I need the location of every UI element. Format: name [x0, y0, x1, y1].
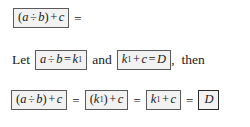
- equals-sign: =: [69, 12, 86, 25]
- variable-c: c: [118, 93, 124, 106]
- equals-sign-2: =: [128, 94, 145, 107]
- equals-sign-1: =: [67, 94, 84, 107]
- variable-D: D: [157, 53, 166, 66]
- plus-operator: +: [131, 53, 141, 66]
- division-operator: ÷: [46, 53, 56, 66]
- equals-sign: =: [62, 53, 72, 66]
- boxed-expression-original-restated: (a÷b)+c: [11, 90, 67, 110]
- let-keyword: Let: [12, 53, 35, 67]
- derivation-line-2: Let a÷b=k1 and k1+c=D , then: [12, 50, 210, 70]
- division-operator: ÷: [26, 93, 36, 106]
- boxed-result-D: D: [198, 90, 219, 110]
- variable-D: D: [204, 93, 213, 106]
- derivation-line-3: (a÷b)+c = (k1)+c = k1+c = D: [11, 90, 219, 110]
- plus-operator: +: [160, 93, 170, 106]
- plus-operator: +: [108, 93, 118, 106]
- boxed-expression-substituted: (k1)+c: [85, 90, 129, 110]
- then-keyword: then: [177, 53, 210, 67]
- boxed-definition-k1: a÷b=k1: [35, 50, 87, 70]
- equals-sign: =: [147, 53, 157, 66]
- math-derivation-page: (a÷b)+c = Let a÷b=k1 and k1+c=D , then (…: [0, 0, 250, 127]
- variable-c: c: [57, 93, 63, 106]
- boxed-expression-original: (a÷b)+c: [13, 8, 69, 28]
- boxed-expression-simplified: k1+c: [146, 90, 181, 110]
- boxed-definition-D: k1+c=D: [117, 50, 171, 70]
- equals-sign-3: =: [181, 94, 198, 107]
- variable-c: c: [59, 11, 65, 24]
- variable-c: c: [171, 93, 177, 106]
- and-keyword: and: [87, 53, 117, 67]
- subscript-1: 1: [78, 56, 82, 64]
- derivation-line-1: (a÷b)+c =: [13, 8, 87, 28]
- plus-operator: +: [49, 11, 59, 24]
- plus-operator: +: [47, 93, 57, 106]
- division-operator: ÷: [28, 11, 38, 24]
